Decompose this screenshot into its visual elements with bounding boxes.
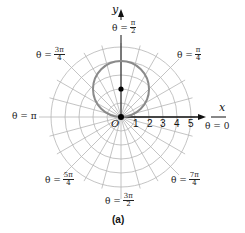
x-axis-label: x <box>219 101 225 114</box>
y-axis-label: y <box>112 3 118 16</box>
fraction: π2 <box>130 20 137 35</box>
grid-spoke <box>121 80 185 117</box>
theta-prefix: θ = <box>112 23 128 33</box>
theta-pi-text: θ = π <box>12 111 37 121</box>
theta-prefix: θ = <box>105 196 121 206</box>
x-axis-arrow-icon <box>198 114 206 120</box>
radial-tick-1: 1 <box>133 118 139 129</box>
angle-label-pi-over-2: θ = π2 <box>112 20 136 35</box>
radial-tick-5: 5 <box>188 118 194 129</box>
theta-prefix: θ = <box>45 175 61 185</box>
circle-center-point <box>118 86 123 91</box>
fraction: 7π4 <box>189 172 200 187</box>
fraction-den: 4 <box>196 55 200 62</box>
angle-label-0: θ = 0 <box>205 121 229 131</box>
figure-caption: (a) <box>112 214 124 225</box>
theta-prefix: θ = <box>171 175 187 185</box>
fraction-den: 4 <box>66 180 70 187</box>
pole-label: O <box>111 118 119 129</box>
grid-spoke <box>57 80 121 117</box>
y-axis-arrow-icon <box>118 9 124 17</box>
fraction-den: 4 <box>192 180 196 187</box>
theta-prefix: θ = <box>36 50 52 60</box>
angle-label-7pi-over-4: θ = 7π4 <box>171 172 200 187</box>
radial-tick-3: 3 <box>160 118 166 129</box>
fraction-den: 4 <box>57 55 61 62</box>
angle-label-pi: θ = π <box>12 111 37 121</box>
angle-label-pi-over-4: θ = π4 <box>177 47 201 62</box>
fraction: π4 <box>195 47 202 62</box>
grid-spoke <box>121 59 179 117</box>
angle-label-3pi-over-4: θ = 3π4 <box>36 47 65 62</box>
angle-label-5pi-over-4: θ = 5π4 <box>45 172 74 187</box>
angle-label-3pi-over-2: θ = 3π2 <box>105 193 134 208</box>
fraction-den: 2 <box>126 201 130 208</box>
theta-prefix: θ = <box>177 50 193 60</box>
fraction: 5π4 <box>63 172 74 187</box>
theta-zero-text: θ = 0 <box>205 121 229 131</box>
fraction: 3π4 <box>54 47 65 62</box>
fraction: 3π2 <box>123 193 134 208</box>
radial-tick-2: 2 <box>147 118 153 129</box>
radial-tick-4: 4 <box>174 118 180 129</box>
fraction-den: 2 <box>131 28 135 35</box>
grid-spoke <box>63 59 121 117</box>
